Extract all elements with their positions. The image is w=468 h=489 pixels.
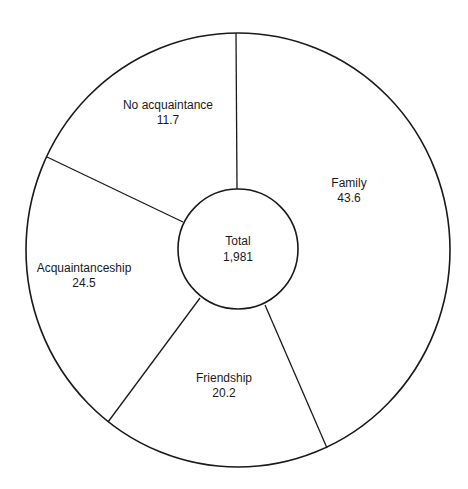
center-value: 1,981 [223,250,253,264]
slice-label-friendship: Friendship [196,371,252,385]
slice-value-friendship: 20.2 [212,386,236,400]
slice-value-family: 43.6 [337,191,361,205]
slice-value-no-acquaintance: 11.7 [157,113,180,127]
slice-value-acquaintanceship: 24.5 [72,276,96,290]
slice-label-acquaintanceship: Acquaintanceship [37,261,132,275]
donut-chart: Total 1,981 Family 43.6 Friendship 20.2 … [0,0,468,489]
center-title: Total [225,234,250,248]
inner-circle [178,189,298,309]
slice-label-no-acquaintance: No acquaintance [123,98,213,112]
slice-label-family: Family [331,176,366,190]
